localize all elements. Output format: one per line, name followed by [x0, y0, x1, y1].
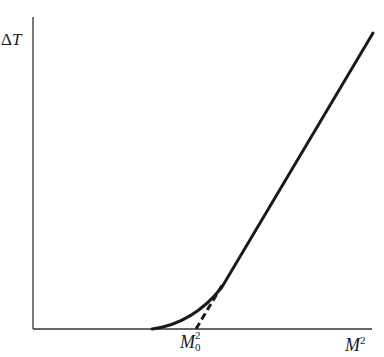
- x-axis-label: M2: [345, 334, 366, 356]
- delta-t-curve: [152, 33, 373, 329]
- chart-canvas: [0, 0, 384, 357]
- y-axis-label: ΔT: [1, 30, 21, 50]
- m0-squared-label: M20: [180, 332, 203, 353]
- linear-extrapolation-dashed: [196, 282, 224, 329]
